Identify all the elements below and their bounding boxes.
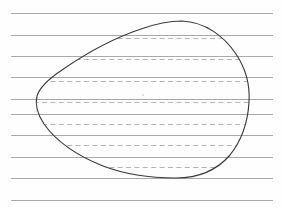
page-background (0, 0, 282, 209)
drawing-canvas (0, 0, 282, 209)
faint-speck-upper (142, 94, 144, 96)
paper-sheet (0, 0, 282, 209)
faint-speck-lower (35, 110, 37, 112)
